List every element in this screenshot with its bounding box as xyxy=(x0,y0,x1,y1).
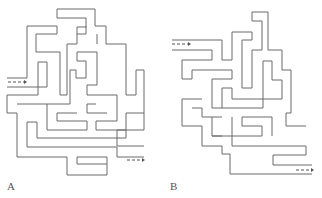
arrowhead-icon xyxy=(142,158,145,162)
arrowhead-icon xyxy=(311,168,314,172)
exit-arrows xyxy=(0,0,322,198)
